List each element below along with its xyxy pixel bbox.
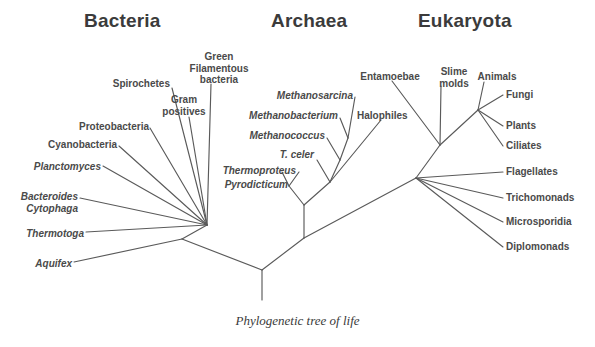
domain-heading-archaea: Archaea: [271, 10, 347, 32]
taxon-label-thermoproteus: Thermoproteus: [195, 165, 296, 177]
taxon-label-methanosarcina: Methanosarcina: [235, 90, 353, 102]
domain-heading-eukaryota: Eukaryota: [418, 10, 512, 32]
taxon-label-planctomyces: Planctomyces: [0, 161, 101, 173]
branch-eukaryota-crown-stem: [416, 145, 440, 178]
taxon-label-trichomonads: Trichomonads: [506, 192, 574, 204]
branch-bacteroides-cytophaga: [80, 198, 207, 225]
phylogenetic-tree-figure: Bacteria Archaea Eukaryota Spirochetes G…: [0, 0, 595, 347]
branch-t-celer: [317, 160, 330, 182]
branch-halophiles: [330, 120, 381, 182]
branch-planctomyces: [103, 166, 207, 225]
taxon-label-plants: Plants: [506, 120, 536, 132]
taxon-label-spirochetes: Spirochetes: [0, 78, 170, 90]
branch-aquifex: [74, 239, 182, 262]
branch-flagellates: [416, 172, 503, 178]
taxon-label-thermotoga: Thermotoga: [0, 228, 84, 240]
taxon-label-fungi: Fungi: [506, 89, 533, 101]
branch-archaea-upper-stem: [304, 182, 330, 205]
branch-slime-molds: [440, 86, 441, 145]
taxon-label-diplomonads: Diplomonads: [506, 241, 569, 253]
taxon-label-bacteroides-cytophaga: BacteroidesCytophaga: [0, 191, 78, 214]
branch-eukaryota-upper-node: [440, 110, 478, 145]
branch-methanococcus: [327, 138, 340, 160]
taxon-label-methanobacterium: Methanobacterium: [205, 110, 338, 122]
branch-pyrodicticum: [289, 186, 304, 205]
branch-fungi: [478, 95, 503, 110]
taxon-label-pyrodicticum: Pyrodicticum: [195, 179, 288, 191]
branch-root-to-bacteria: [182, 239, 262, 270]
taxon-label-microsporidia: Microsporidia: [506, 216, 572, 228]
branch-thermotoga: [86, 225, 207, 232]
taxon-label-t-celer: T. celer: [240, 149, 314, 161]
taxon-label-methanococcus: Methanococcus: [210, 130, 325, 142]
taxon-label-entamoebae: Entamoebae: [352, 71, 428, 83]
taxon-label-ciliates: Ciliates: [506, 140, 542, 152]
branch-to-eukaryota: [304, 178, 416, 238]
taxon-label-aquifex: Aquifex: [0, 258, 72, 270]
branch-bacteria-basal-to-fan: [182, 225, 207, 239]
branch-ciliates: [478, 110, 503, 146]
branch-microsporidia: [416, 178, 503, 222]
domain-heading-bacteria: Bacteria: [84, 10, 161, 32]
branch-cyanobacteria: [119, 146, 207, 225]
taxon-label-green-filamentous-bacteria: GreenFilamentousbacteria: [180, 51, 258, 86]
figure-caption: Phylogenetic tree of life: [0, 313, 595, 329]
branch-methanosarcina: [348, 97, 355, 138]
taxon-label-proteobacteria: Proteobacteria: [0, 121, 149, 133]
branch-methanobacterium-node: [340, 138, 348, 160]
taxon-label-slime-molds: Slimemolds: [432, 66, 476, 89]
taxon-label-cyanobacteria: Cyanobacteria: [0, 139, 117, 151]
taxon-label-animals: Animals: [473, 71, 521, 83]
branch-methanobacterium: [340, 118, 348, 138]
taxon-label-flagellates: Flagellates: [506, 166, 558, 178]
branch-animals: [478, 82, 484, 110]
branch-plants: [478, 110, 503, 126]
taxon-label-halophiles: Halophiles: [357, 110, 408, 122]
branch-root-to-archaea-eukaryota: [262, 238, 304, 270]
